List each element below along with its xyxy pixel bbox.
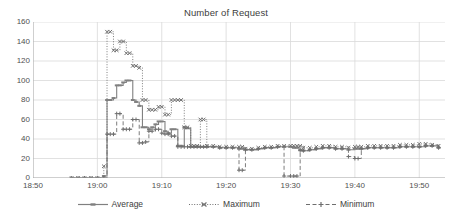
chart-container: Number of Request 020406080100120140160 …: [0, 0, 452, 217]
chart-title: Number of Request: [0, 7, 452, 18]
data-point-marker: [295, 174, 299, 178]
data-point-marker: [173, 134, 177, 138]
data-point-marker: [404, 145, 408, 149]
data-point-marker: [128, 127, 132, 131]
legend-label: Maximum: [223, 200, 260, 209]
chart-legend: AverageMaximumMinimum: [0, 196, 452, 212]
data-point-marker: [250, 148, 254, 152]
series-minimum: [70, 112, 441, 178]
series-group: [70, 30, 441, 178]
x-tick-label: 19:10: [152, 181, 172, 190]
legend-swatch-dashed: [306, 200, 336, 209]
plot-svg: [33, 22, 445, 178]
series-line: [72, 114, 439, 178]
plot-area: [33, 22, 445, 178]
legend-item-maximum[interactable]: Maximum: [189, 200, 260, 209]
data-point-marker: [372, 146, 376, 150]
data-point-marker: [327, 146, 331, 150]
data-point-marker: [211, 145, 215, 149]
data-point-marker: [392, 146, 396, 150]
legend-label: Minimum: [340, 200, 374, 209]
data-point-marker: [359, 147, 363, 151]
x-tick-label: 19:00: [87, 181, 107, 190]
data-point-marker: [166, 113, 170, 117]
x-tick-label: 19:30: [280, 181, 300, 190]
x-tick-label: 19:50: [409, 181, 429, 190]
y-tick-label: 140: [0, 38, 30, 46]
data-point-marker: [269, 146, 273, 150]
y-tick-label: 40: [0, 135, 30, 143]
x-tick-label: 18:50: [23, 181, 43, 190]
series-maximum: [70, 30, 441, 178]
y-tick-label: 120: [0, 57, 30, 65]
legend-label: Average: [112, 200, 144, 209]
legend-item-minimum[interactable]: Minimum: [306, 200, 374, 209]
legend-item-average[interactable]: Average: [78, 200, 144, 209]
legend-swatch-solid: [78, 200, 108, 209]
data-point-marker: [282, 174, 286, 178]
x-axis: 18:5019:0019:1019:2019:3019:4019:50: [33, 181, 445, 195]
y-tick-label: 160: [0, 18, 30, 26]
legend-swatch-dotted: [189, 200, 219, 209]
data-point-marker: [340, 147, 344, 151]
data-point-marker: [346, 155, 350, 159]
data-point-marker: [240, 168, 244, 172]
data-point-marker: [379, 146, 383, 150]
data-point-marker: [118, 112, 122, 116]
data-point-marker: [111, 132, 115, 136]
data-point-marker: [385, 146, 389, 150]
y-axis: 020406080100120140160: [0, 22, 30, 178]
data-point-marker: [154, 108, 158, 112]
data-point-marker: [356, 157, 360, 161]
y-tick-label: 100: [0, 77, 30, 85]
data-point-marker: [108, 30, 112, 34]
data-point-marker: [157, 127, 161, 131]
x-tick-label: 19:20: [216, 181, 236, 190]
y-tick-label: 20: [0, 155, 30, 163]
x-tick-label: 19:40: [345, 181, 365, 190]
data-point-marker: [411, 145, 415, 149]
y-tick-label: 60: [0, 116, 30, 124]
y-tick-label: 80: [0, 96, 30, 104]
data-point-marker: [134, 118, 138, 122]
data-point-marker: [224, 146, 228, 150]
